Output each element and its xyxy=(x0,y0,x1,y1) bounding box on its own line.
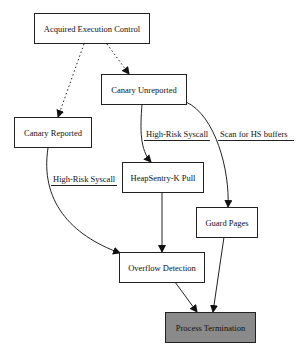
edge-label-scan-for-hs-buffers: Scan for HS buffers xyxy=(218,129,294,141)
edge-reported-overflow xyxy=(47,148,120,253)
edge-acquired-unreported xyxy=(107,44,129,74)
node-overflow-detection: Overflow Detection xyxy=(119,252,205,283)
node-guard-pages: Guard Pages xyxy=(196,207,258,238)
edge-guard-termination xyxy=(213,237,224,312)
node-process-termination: Process Termination xyxy=(165,312,256,343)
node-acquired-execution-control: Acquired Execution Control xyxy=(34,13,150,44)
edge-overflow-termination xyxy=(175,282,197,312)
edge-acquired-reported xyxy=(58,44,84,117)
node-canary-reported: Canary Reported xyxy=(14,117,92,148)
edge-label-high-risk-syscall-2: High-Risk Syscall xyxy=(51,174,117,186)
edge-label-high-risk-syscall-1: High-Risk Syscall xyxy=(144,129,210,141)
node-canary-unreported: Canary Unreported xyxy=(101,74,187,105)
node-heapsentry-k-pull: HeapSentry-K Pull xyxy=(122,162,204,193)
